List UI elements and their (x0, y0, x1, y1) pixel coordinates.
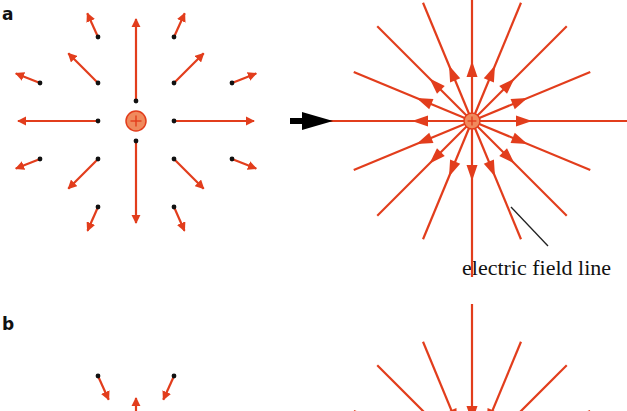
vector-field-negative (38, 374, 235, 411)
vector-field-positive (16, 13, 256, 230)
field-lines-negative (316, 304, 627, 411)
field-lines-positive (316, 0, 627, 277)
field-diagram (0, 0, 627, 411)
transition-arrow-icon (290, 112, 333, 130)
